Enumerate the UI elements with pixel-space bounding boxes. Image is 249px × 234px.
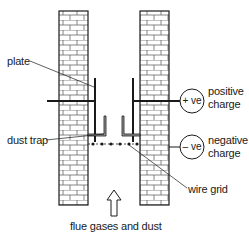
right-dust-trap bbox=[122, 116, 140, 136]
wire-grid bbox=[88, 142, 140, 145]
positive-charge-label-line2: charge bbox=[208, 98, 240, 110]
flue-gases-label: flue gases and dust bbox=[70, 220, 162, 232]
negative-charge-label-line2: charge bbox=[208, 147, 240, 159]
dust-trap-label: dust trap bbox=[7, 134, 48, 146]
negative-charge-label-line1: negative bbox=[208, 134, 248, 146]
left-wall bbox=[59, 11, 88, 205]
plate-label: plate bbox=[7, 55, 30, 67]
up-arrow-icon bbox=[107, 190, 121, 216]
positive-terminal-label: + ve bbox=[180, 96, 204, 106]
negative-terminal-label: – ve bbox=[180, 142, 204, 152]
positive-charge-label-line1: positive bbox=[208, 85, 244, 97]
left-dust-trap bbox=[88, 116, 106, 136]
wire-grid-label: wire grid bbox=[188, 183, 228, 195]
right-wall bbox=[140, 11, 169, 205]
diagram-graphics bbox=[0, 0, 249, 234]
precipitator-diagram: + ve – ve plate dust trap wire grid posi… bbox=[0, 0, 249, 234]
